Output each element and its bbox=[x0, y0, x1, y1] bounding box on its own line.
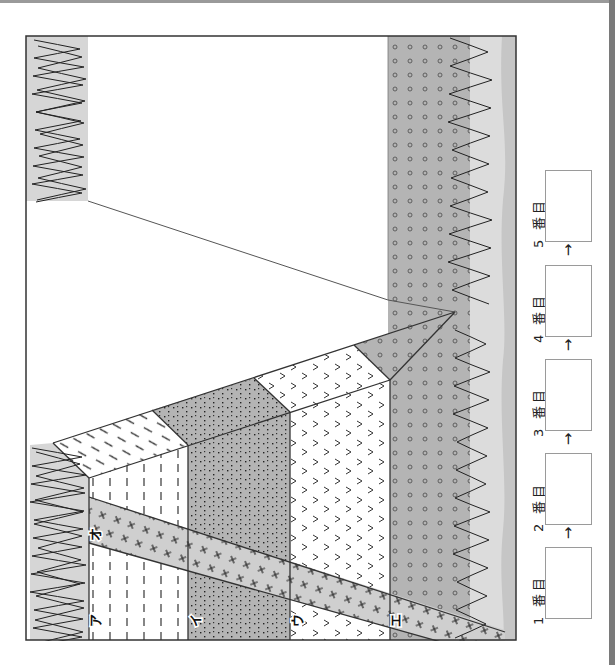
answer-box-2[interactable] bbox=[545, 453, 592, 525]
answer-box-5[interactable] bbox=[545, 170, 592, 242]
geologic-diagram: ア イ ウ エ オ bbox=[0, 0, 615, 665]
page-top-edge bbox=[0, 0, 609, 3]
label-o: オ bbox=[88, 528, 103, 541]
answer-box-4[interactable] bbox=[545, 265, 592, 337]
label-a: ア bbox=[88, 614, 103, 627]
answer-box-3[interactable] bbox=[545, 359, 592, 431]
answer-box-1[interactable] bbox=[545, 547, 592, 619]
arrow-4: → bbox=[559, 244, 577, 257]
page-edge bbox=[609, 0, 615, 665]
label-i: イ bbox=[188, 614, 203, 627]
arrow-3: → bbox=[559, 339, 577, 352]
layer-i-dots bbox=[188, 412, 290, 640]
arrow-2: → bbox=[559, 433, 577, 446]
label-e: エ bbox=[388, 614, 403, 627]
arrow-1: → bbox=[559, 527, 577, 540]
label-u: ウ bbox=[290, 614, 305, 627]
